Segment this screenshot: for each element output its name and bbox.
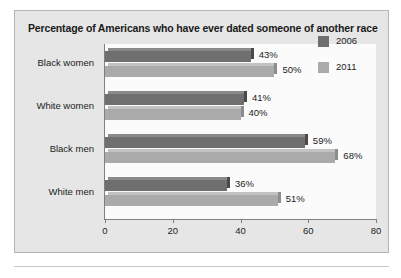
bottom-divider bbox=[14, 266, 389, 267]
bar-value-label: 43% bbox=[259, 49, 278, 60]
legend-swatch-2006 bbox=[318, 36, 329, 47]
bar-face bbox=[105, 51, 251, 62]
bar-side-face bbox=[241, 106, 244, 117]
x-tick bbox=[173, 219, 174, 223]
chart-screenshot: Percentage of Americans who have ever da… bbox=[0, 0, 401, 278]
category-label: White women bbox=[0, 100, 94, 111]
x-tick bbox=[105, 219, 106, 223]
bar-side-face bbox=[305, 134, 308, 145]
bar-2011-black-women bbox=[105, 66, 274, 77]
category-label: Black women bbox=[0, 57, 94, 68]
bar-face bbox=[105, 137, 305, 148]
x-tick-label: 60 bbox=[303, 225, 314, 236]
bar-2006-white-men bbox=[105, 180, 227, 191]
category-label: Black men bbox=[0, 143, 94, 154]
bar-2006-black-women bbox=[105, 51, 251, 62]
x-tick bbox=[241, 219, 242, 223]
bar-2011-white-women bbox=[105, 109, 241, 120]
bar-side-face bbox=[244, 91, 247, 102]
x-tick-label: 0 bbox=[102, 225, 107, 236]
bar-side-face bbox=[227, 177, 230, 188]
bar-face bbox=[105, 195, 278, 206]
bar-2011-white-men bbox=[105, 195, 278, 206]
x-tick bbox=[376, 219, 377, 223]
bar-face bbox=[105, 94, 244, 105]
x-tick-label: 40 bbox=[235, 225, 246, 236]
bar-value-label: 50% bbox=[282, 64, 301, 75]
bar-value-label: 40% bbox=[249, 107, 268, 118]
bar-2006-black-men bbox=[105, 137, 305, 148]
legend-swatch-2011 bbox=[318, 62, 329, 73]
bar-2006-white-women bbox=[105, 94, 244, 105]
bar-group: White men36%51% bbox=[15, 176, 388, 219]
bar-value-label: 59% bbox=[313, 135, 332, 146]
bar-value-label: 41% bbox=[252, 92, 271, 103]
bar-group: White women41%40% bbox=[15, 90, 388, 133]
bar-2011-black-men bbox=[105, 152, 335, 163]
chart-frame: Percentage of Americans who have ever da… bbox=[14, 10, 389, 253]
bar-side-face bbox=[335, 149, 338, 160]
x-tick-label: 80 bbox=[371, 225, 382, 236]
bar-value-label: 51% bbox=[286, 193, 305, 204]
bar-value-label: 68% bbox=[343, 150, 362, 161]
bar-value-label: 36% bbox=[235, 178, 254, 189]
bar-side-face bbox=[278, 192, 281, 203]
chart-title: Percentage of Americans who have ever da… bbox=[28, 22, 378, 34]
legend-label-2011: 2011 bbox=[336, 61, 356, 72]
category-label: White men bbox=[0, 186, 94, 197]
bar-group: Black men59%68% bbox=[15, 133, 388, 176]
bar-side-face bbox=[251, 48, 254, 59]
bar-face bbox=[105, 109, 241, 120]
bar-group: Black women43%50% bbox=[15, 47, 388, 90]
bar-face bbox=[105, 66, 274, 77]
x-tick-label: 20 bbox=[167, 225, 178, 236]
bar-face bbox=[105, 180, 227, 191]
x-tick bbox=[308, 219, 309, 223]
legend-label-2006: 2006 bbox=[336, 35, 357, 46]
bar-face bbox=[105, 152, 335, 163]
bar-side-face bbox=[274, 63, 277, 74]
